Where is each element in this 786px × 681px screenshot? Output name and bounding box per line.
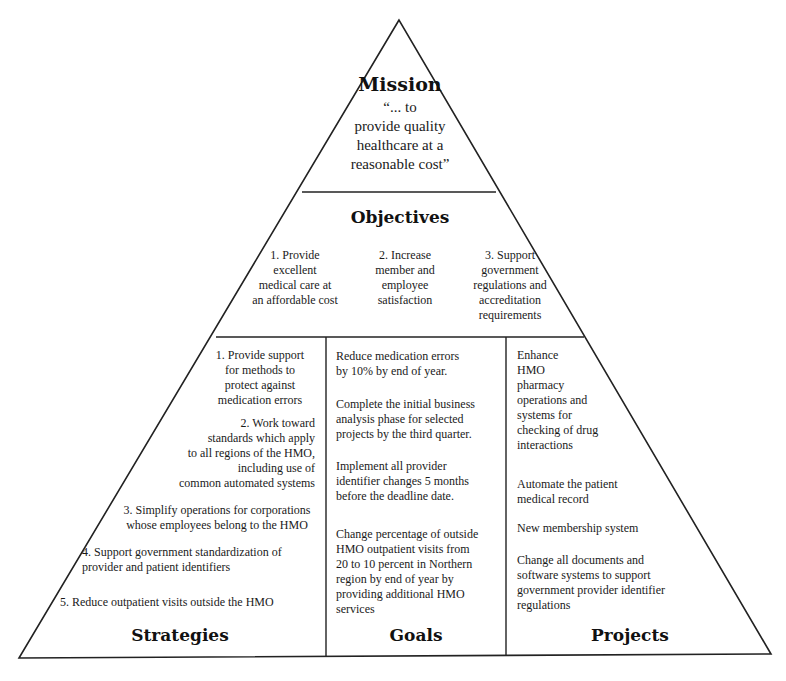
project-1: Enhance HMO pharmacy operations and syst… <box>517 348 637 453</box>
goals-title: Goals <box>356 624 476 646</box>
strategy-2: 2. Work toward standards which apply to … <box>130 416 315 491</box>
strategy-5: 5. Reduce outpatient visits outside the … <box>60 595 322 610</box>
project-4: Change all documents and software system… <box>517 553 717 613</box>
mission-statement: “... to provide quality healthcare at a … <box>300 98 500 174</box>
objectives-title: Objectives <box>300 206 500 228</box>
strategy-1: 1. Provide support for methods to protec… <box>200 348 320 408</box>
strategy-4: 4. Support government standardization of… <box>82 545 322 575</box>
goal-3: Implement all provider identifier change… <box>336 459 504 504</box>
project-2: Automate the patient medical record <box>517 477 677 507</box>
strategy-3: 3. Simplify operations for corporations … <box>108 503 326 533</box>
objective-3: 3. Support government regulations and ac… <box>455 248 565 323</box>
mission-title: Mission <box>320 73 480 95</box>
goal-2: Complete the initial business analysis p… <box>336 397 504 442</box>
objective-2: 2. Increase member and employee satisfac… <box>355 248 455 308</box>
goal-4: Change percentage of outside HMO outpati… <box>336 527 504 617</box>
objective-1: 1. Provide excellent medical care at an … <box>240 248 350 308</box>
strategies-title: Strategies <box>100 624 260 646</box>
project-3: New membership system <box>517 521 697 536</box>
goal-1: Reduce medication errors by 10% by end o… <box>336 349 504 379</box>
projects-title: Projects <box>560 624 700 646</box>
